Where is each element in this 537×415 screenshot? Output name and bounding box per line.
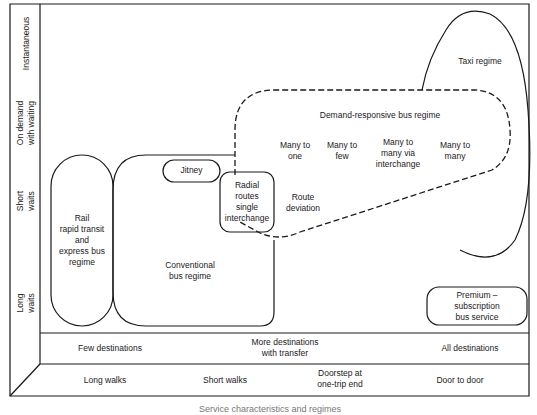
dest-more-line1: More destinations <box>230 337 340 348</box>
walk-doorstep: Doorstep at one-trip end <box>290 368 390 390</box>
route-deviation-line2: deviation <box>278 203 328 214</box>
rail-regime-label: Rail rapid transit and express bus regim… <box>52 213 112 268</box>
route-deviation-line1: Route <box>278 192 328 203</box>
y-label-instantaneous: Instantaneous <box>21 4 32 84</box>
taxi-regime-label: Taxi regime <box>440 56 520 67</box>
walk-short: Short walks <box>175 375 275 386</box>
radial-line2: routes <box>220 191 274 202</box>
many-to-one-line2: one <box>270 151 320 162</box>
rail-line2: rapid transit <box>52 224 112 235</box>
premium-line3: bus service <box>427 312 527 323</box>
conventional-line2: bus regime <box>150 271 230 282</box>
walk-long: Long walks <box>55 375 155 386</box>
y-label-short-waits-line2: waits <box>26 161 37 241</box>
rail-line3: and <box>52 235 112 246</box>
many-to-one-line1: Many to <box>270 140 320 151</box>
conventional-line1: Conventional <box>150 260 230 271</box>
y-label-long-waits-line1: Long <box>15 263 26 343</box>
taxi-regime-shape <box>422 11 530 257</box>
many-to-many-via-line2: many via <box>368 148 428 159</box>
premium-line1: Premium – <box>427 290 527 301</box>
walk-doorstep-line1: Doorstep at <box>290 368 390 379</box>
y-label-short-waits-line1: Short <box>15 161 26 241</box>
corner-diagonal <box>10 364 40 396</box>
y-label-on-demand: On demand with waiting <box>15 83 37 163</box>
many-to-many-line1: Many to <box>430 140 480 151</box>
many-to-many-via-line3: interchange <box>368 159 428 170</box>
many-to-many-via-line1: Many to <box>368 137 428 148</box>
dest-all: All destinations <box>420 343 520 354</box>
radial-line3: single <box>220 202 274 213</box>
radial-line1: Radial <box>220 180 274 191</box>
many-to-many-line2: many <box>430 151 480 162</box>
route-deviation-label: Route deviation <box>278 192 328 214</box>
many-to-one-label: Many to one <box>270 140 320 162</box>
figure-caption: Service characteristics and regimes <box>150 404 390 415</box>
y-label-short-waits: Short waits <box>15 161 37 241</box>
many-to-few-line1: Many to <box>317 140 367 151</box>
y-label-on-demand-line1: On demand <box>15 83 26 163</box>
jitney-label: Jitney <box>163 165 220 176</box>
y-label-long-waits-line2: waits <box>26 263 37 343</box>
radial-routes-label: Radial routes single interchange <box>220 180 274 224</box>
many-to-few-label: Many to few <box>317 140 367 162</box>
rail-line5: regime <box>52 257 112 268</box>
demand-responsive-label: Demand-responsive bus regime <box>300 110 460 121</box>
walk-doorstep-line2: one-trip end <box>290 379 390 390</box>
y-label-on-demand-line2: with waiting <box>26 83 37 163</box>
rail-line1: Rail <box>52 213 112 224</box>
dest-more: More destinations with transfer <box>230 337 340 359</box>
premium-line2: subscription <box>427 301 527 312</box>
y-label-long-waits: Long waits <box>15 263 37 343</box>
conventional-bus-label: Conventional bus regime <box>150 260 230 282</box>
many-to-many-label: Many to many <box>430 140 480 162</box>
many-to-many-via-label: Many to many via interchange <box>368 137 428 170</box>
dest-more-line2: with transfer <box>230 348 340 359</box>
dest-few: Few destinations <box>60 343 160 354</box>
many-to-few-line2: few <box>317 151 367 162</box>
premium-label: Premium – subscription bus service <box>427 290 527 323</box>
radial-line4: interchange <box>220 213 274 224</box>
walk-door: Door to door <box>410 375 510 386</box>
rail-line4: express bus <box>52 246 112 257</box>
